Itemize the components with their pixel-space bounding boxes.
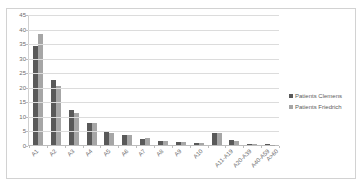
bar[interactable] — [127, 135, 132, 145]
legend-label: Patients Clemens — [295, 93, 342, 99]
x-label-slot: A11-A19 — [208, 147, 226, 179]
gridline — [28, 102, 279, 103]
x-tick-label: A>60 — [265, 148, 279, 162]
bar-group — [243, 15, 261, 145]
y-tickmark — [26, 117, 28, 118]
bar-group — [65, 15, 83, 145]
x-label-slot: A1 — [29, 147, 47, 179]
y-tick-label: 20 — [19, 85, 26, 91]
bar-group — [225, 15, 243, 145]
y-tick-label: 15 — [19, 99, 26, 105]
gridline — [28, 30, 279, 31]
x-tick-label: A4 — [84, 148, 93, 157]
y-tickmark — [26, 15, 28, 16]
gridline — [28, 88, 279, 89]
x-label-slot: A40-A59 — [244, 147, 262, 179]
bar[interactable] — [38, 34, 43, 145]
bar-group — [100, 15, 118, 145]
legend-item[interactable]: Patients Friedrich — [289, 101, 355, 112]
y-tickmark — [26, 59, 28, 60]
gridline — [28, 44, 279, 45]
y-tick-label: 10 — [19, 114, 26, 120]
x-label-slot: A9 — [172, 147, 190, 179]
x-label-slot: A>60 — [262, 147, 280, 179]
x-label-slot: A4 — [83, 147, 101, 179]
x-tick-label: A7 — [138, 148, 147, 157]
bar-group — [83, 15, 101, 145]
y-tick-label: 30 — [19, 56, 26, 62]
bar-group — [172, 15, 190, 145]
gridline — [28, 73, 279, 74]
y-tickmark — [26, 146, 28, 147]
x-label-slot: A6 — [119, 147, 137, 179]
x-tick-label: A1 — [30, 148, 39, 157]
bar-group — [154, 15, 172, 145]
y-tickmark — [26, 88, 28, 89]
legend-label: Patients Friedrich — [295, 104, 342, 110]
bar[interactable] — [252, 144, 257, 145]
bar[interactable] — [181, 142, 186, 145]
bar[interactable] — [234, 141, 239, 145]
legend-swatch-clemens — [289, 94, 293, 98]
y-tickmark — [26, 73, 28, 74]
y-tick-label: 45 — [19, 12, 26, 18]
plot-area — [28, 15, 279, 146]
bar-group — [261, 15, 279, 145]
bar[interactable] — [109, 133, 114, 145]
y-axis: 454035302520151050 — [9, 15, 26, 146]
x-tick-label: A8 — [156, 148, 165, 157]
bar[interactable] — [92, 123, 97, 145]
chart-frame: 454035302520151050 A1A2A3A4A5A6A7A8A9A10… — [6, 8, 356, 179]
gridline — [28, 131, 279, 132]
x-label-slot: A20-A39 — [226, 147, 244, 179]
bar-group — [136, 15, 154, 145]
x-tick-label: A5 — [102, 148, 111, 157]
bar-group — [190, 15, 208, 145]
x-axis: A1A2A3A4A5A6A7A8A9A10A11-A19A20-A39A40-A… — [29, 147, 280, 179]
y-tick-label: 35 — [19, 41, 26, 47]
chart-legend: Patients ClemensPatients Friedrich — [289, 90, 355, 112]
bar-group — [29, 15, 47, 145]
y-tickmark — [26, 131, 28, 132]
gridline — [28, 59, 279, 60]
y-tickmark — [26, 30, 28, 31]
x-label-slot: A2 — [47, 147, 65, 179]
x-label-slot: A7 — [137, 147, 155, 179]
x-tick-label: A2 — [48, 148, 57, 157]
x-label-slot: A8 — [154, 147, 172, 179]
bar[interactable] — [217, 133, 222, 145]
bar[interactable] — [163, 141, 168, 145]
x-tick-label: A6 — [120, 148, 129, 157]
gridline — [28, 15, 279, 16]
bar-group — [118, 15, 136, 145]
legend-item[interactable]: Patients Clemens — [289, 90, 355, 101]
bar-group — [47, 15, 65, 145]
x-label-slot: A5 — [101, 147, 119, 179]
bar[interactable] — [199, 143, 204, 145]
bar-group — [208, 15, 226, 145]
chart-plot-wrapper: 454035302520151050 A1A2A3A4A5A6A7A8A9A10… — [7, 9, 355, 178]
x-label-slot: A10 — [190, 147, 208, 179]
bars-layer — [29, 15, 279, 145]
y-tickmark — [26, 102, 28, 103]
y-tick-label: 25 — [19, 70, 26, 76]
x-tick-label: A10 — [192, 148, 204, 160]
y-tickmark — [26, 44, 28, 45]
bar[interactable] — [145, 138, 150, 145]
legend-swatch-friedrich — [289, 105, 293, 109]
gridline — [28, 117, 279, 118]
x-label-slot: A3 — [65, 147, 83, 179]
x-tick-label: A9 — [173, 148, 182, 157]
y-tick-label: 40 — [19, 27, 26, 33]
top-text-remnant — [0, 0, 364, 7]
bar[interactable] — [56, 86, 61, 145]
x-tick-label: A3 — [66, 148, 75, 157]
